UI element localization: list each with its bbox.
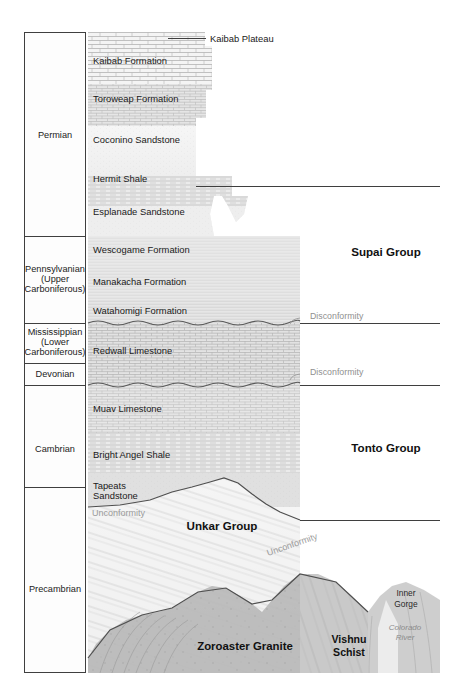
period-label-permian: Permian	[38, 130, 72, 140]
period-label-devonian: Devonian	[36, 369, 75, 379]
stratigraphic-column-figure: Permian Pennsylvanian (Upper Carbonifero…	[0, 0, 451, 690]
period-label-pennsylvanian-3: Carboniferous)	[25, 284, 86, 294]
annotation-label-kaibab-plateau: Kaibab Plateau	[210, 33, 274, 44]
annotation-label-colorado-river-2: River	[396, 633, 415, 642]
formation-label-wescogame-formation: Wescogame Formation	[93, 244, 190, 255]
layer-toroweap-formation	[80, 84, 310, 126]
formation-label-redwall-limestone: Redwall Limestone	[93, 345, 172, 356]
period-label-mississippian-1: Mississippian	[28, 327, 83, 337]
contact-label-disconformity-upper: Disconformity	[310, 311, 364, 321]
period-label-pennsylvanian-1: Pennsylvanian	[25, 264, 85, 274]
formation-label-hermit-shale: Hermit Shale	[93, 173, 147, 184]
annotation-label-inner-gorge-2: Gorge	[394, 599, 418, 609]
vishnu-schist-body	[300, 574, 368, 673]
period-label-pennsylvanian-2: (Upper	[41, 274, 69, 284]
period-label-cambrian: Cambrian	[35, 444, 75, 454]
formation-label-coconino-sandstone: Coconino Sandstone	[93, 134, 180, 145]
annotation-label-colorado-river-1: Colorado	[389, 623, 422, 632]
group-label-supai-group: Supai Group	[351, 245, 421, 258]
contact-label-disconformity-lower: Disconformity	[310, 367, 364, 377]
formation-label-toroweap-formation: Toroweap Formation	[93, 93, 178, 104]
contact-label-unconformity-great: Unconformity	[92, 508, 146, 518]
annotation-label-inner-gorge-1: Inner	[396, 588, 415, 598]
period-label-mississippian-3: Carboniferous)	[25, 347, 86, 357]
period-label-mississippian-2: (Lower	[41, 337, 69, 347]
stratigraphic-diagram: Permian Pennsylvanian (Upper Carbonifero…	[0, 0, 451, 690]
formation-label-bright-angel-shale: Bright Angel Shale	[93, 449, 170, 460]
formation-label-manakacha-formation: Manakacha Formation	[93, 276, 186, 287]
formation-label-kaibab-formation: Kaibab Formation	[93, 55, 167, 66]
period-label-precambrian: Precambrian	[29, 584, 81, 594]
basement-label-vishnu-schist-1: Vishnu	[331, 633, 366, 645]
group-label-unkar-group: Unkar Group	[187, 519, 258, 532]
formation-label-esplanade-sandstone: Esplanade Sandstone	[93, 206, 185, 217]
formation-label-watahomigi-formation: Watahomigi Formation	[93, 305, 187, 316]
basement-label-zoroaster-granite: Zoroaster Granite	[197, 640, 293, 652]
formation-label-tapeats-sandstone-2: Sandstone	[93, 490, 138, 501]
group-label-tonto-group: Tonto Group	[351, 441, 420, 454]
basement-label-vishnu-schist-2: Schist	[333, 646, 365, 658]
formation-label-muav-limestone: Muav Limestone	[93, 403, 162, 414]
